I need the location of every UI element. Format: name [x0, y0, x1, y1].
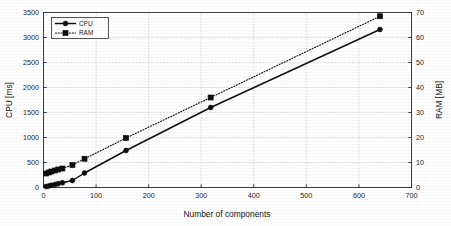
data-point-ram [82, 156, 87, 161]
y2-tick-label: 0 [416, 183, 420, 192]
data-point-ram [70, 163, 75, 168]
y-tick-label: 1000 [23, 133, 39, 142]
data-point-ram [124, 136, 129, 141]
data-point-cpu [60, 180, 65, 185]
legend-label-cpu: CPU [79, 20, 93, 27]
chart-legend[interactable]: CPURAM [52, 18, 109, 39]
x-tick-label: 500 [300, 191, 312, 200]
data-point-ram [377, 14, 382, 19]
y-tick-label: 2500 [23, 58, 39, 67]
x-tick-label: 200 [143, 191, 155, 200]
x-tick-label: 0 [42, 191, 46, 200]
y2-tick-label: 10 [416, 158, 424, 167]
y-tick-label: 0 [35, 183, 39, 192]
dual-axis-line-chart: 0100200300400500600700 05001000150020002… [0, 0, 451, 226]
y2-tick-label: 30 [416, 108, 424, 117]
x-tick-label: 100 [90, 191, 102, 200]
y2-tick-label: 60 [416, 33, 424, 42]
x-axis-title: Number of components [183, 209, 270, 219]
x-tick-label: 400 [248, 191, 260, 200]
x-tick-label: 600 [353, 191, 365, 200]
y2-tick-label: 40 [416, 83, 424, 92]
data-point-cpu [82, 171, 87, 176]
data-point-ram [208, 95, 213, 100]
data-point-cpu [124, 148, 129, 153]
y-tick-label: 3500 [23, 8, 39, 17]
x-tick-label: 300 [195, 191, 207, 200]
data-point-cpu [70, 178, 75, 183]
legend-marker-cpu [63, 21, 68, 26]
legend-label-ram: RAM [79, 29, 93, 36]
y2-tick-label: 70 [416, 8, 424, 17]
y2-tick-label: 20 [416, 133, 424, 142]
y-axis-right-title: RAM [MB] [434, 81, 444, 119]
y-axis-left-title: CPU [ms] [4, 82, 14, 118]
y-tick-label: 500 [27, 158, 39, 167]
y-tick-label: 3000 [23, 33, 39, 42]
legend-marker-ram [63, 31, 68, 36]
y-tick-label: 2000 [23, 83, 39, 92]
y-tick-label: 1500 [23, 108, 39, 117]
data-point-cpu [378, 27, 383, 32]
data-point-ram [60, 166, 65, 171]
x-tick-label: 700 [406, 191, 418, 200]
y2-tick-label: 50 [416, 58, 424, 67]
data-point-cpu [208, 105, 213, 110]
chart-figure: 0100200300400500600700 05001000150020002… [0, 0, 451, 226]
